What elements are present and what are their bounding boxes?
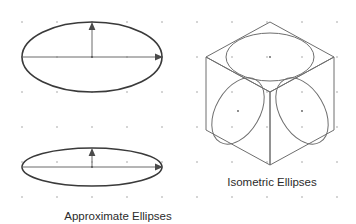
grid-dot <box>266 196 267 197</box>
grid-dot <box>21 91 22 92</box>
grid-dot <box>126 161 127 162</box>
grid-dot <box>21 161 22 162</box>
grid-dot <box>231 21 232 22</box>
grid-dot <box>56 196 57 197</box>
grid-dot <box>56 91 57 92</box>
grid-dot <box>126 21 127 22</box>
grid-dot <box>56 21 57 22</box>
grid-dot <box>231 126 232 127</box>
grid-dot <box>196 126 197 127</box>
grid-dot <box>301 91 302 92</box>
grid-dot <box>91 196 92 197</box>
grid-dot <box>196 161 197 162</box>
grid-dot <box>301 196 302 197</box>
grid-dot <box>336 91 337 92</box>
grid-dot <box>91 126 92 127</box>
cube-top-face-ellipse-center-dot <box>269 56 271 58</box>
grid-dot <box>266 91 267 92</box>
grid-dot <box>336 21 337 22</box>
drawing-canvas: Approximate Ellipses Isometric Ellipses <box>0 0 356 224</box>
grid-dot <box>336 196 337 197</box>
grid-dot <box>161 126 162 127</box>
flat-ellipse-minor-arrow-icon <box>89 148 96 156</box>
cube-right-face-ellipse-center-dot <box>301 110 303 112</box>
grid-dot <box>231 56 232 57</box>
grid-dot <box>126 91 127 92</box>
grid-dot <box>301 126 302 127</box>
grid-dot <box>126 126 127 127</box>
wide-ellipse-minor-arrow-icon <box>89 22 96 30</box>
approximate-ellipses-group <box>22 22 163 186</box>
grid-dot <box>196 56 197 57</box>
grid-dot <box>161 161 162 162</box>
grid-dot <box>301 161 302 162</box>
grid-dot <box>21 126 22 127</box>
flat-ellipse-center-dot <box>91 166 93 168</box>
grid-dot <box>196 91 197 92</box>
grid-dot <box>161 21 162 22</box>
grid-dot <box>126 196 127 197</box>
grid-dot <box>161 196 162 197</box>
grid-dot <box>231 161 232 162</box>
wide-ellipse-center-dot <box>91 56 93 58</box>
grid-dot <box>301 21 302 22</box>
grid-dot <box>161 91 162 92</box>
grid-dot <box>266 56 267 57</box>
cube-left-face-ellipse-center-dot <box>237 110 239 112</box>
approximate-ellipses-caption: Approximate Ellipses <box>64 210 172 222</box>
isometric-cube-group <box>201 22 339 165</box>
grid-dot <box>21 196 22 197</box>
grid-dot <box>56 161 57 162</box>
grid-dot <box>301 56 302 57</box>
grid-dot <box>266 126 267 127</box>
grid-dot <box>336 56 337 57</box>
grid-dot <box>231 196 232 197</box>
grid-dot <box>336 161 337 162</box>
grid-dot <box>21 21 22 22</box>
grid-dot <box>266 161 267 162</box>
grid-dot <box>231 91 232 92</box>
grid-dot <box>196 196 197 197</box>
isometric-ellipses-caption: Isometric Ellipses <box>227 176 317 188</box>
grid-dot <box>196 21 197 22</box>
grid-dot <box>266 21 267 22</box>
grid-dot <box>336 126 337 127</box>
grid-dot-layer <box>21 21 337 197</box>
grid-dot <box>56 126 57 127</box>
